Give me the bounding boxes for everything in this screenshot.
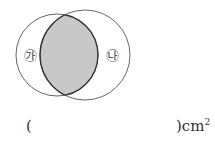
answer-open-paren: ( [26, 117, 32, 135]
unit-exponent: 2 [204, 117, 210, 127]
label-b: ㉯ [106, 48, 119, 63]
label-a: ㉮ [24, 48, 37, 63]
unit-text: cm [182, 117, 205, 135]
answer-unit: )cm2 [176, 117, 210, 135]
